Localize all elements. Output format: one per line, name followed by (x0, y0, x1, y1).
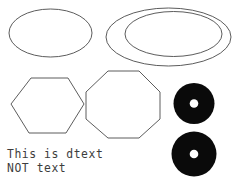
ellipse-outer-right[interactable] (106, 8, 231, 66)
drawing-canvas[interactable]: This is dtext NOT text (0, 0, 235, 181)
donut-top[interactable] (174, 83, 215, 124)
ellipse-left[interactable] (9, 9, 92, 57)
hexagon[interactable] (11, 78, 84, 133)
donut-top-hole (190, 99, 199, 108)
dtext-line-2[interactable]: NOT text (7, 161, 66, 175)
vector-drawing-layer: This is dtext NOT text (0, 0, 235, 181)
donut-bottom[interactable] (172, 132, 217, 177)
donut-bottom-hole (190, 150, 199, 159)
dtext-line-1[interactable]: This is dtext (7, 147, 103, 161)
ellipse-inner-right[interactable] (125, 12, 222, 57)
octagon[interactable] (86, 71, 160, 138)
